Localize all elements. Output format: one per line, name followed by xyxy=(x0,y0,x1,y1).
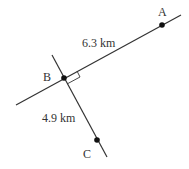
geometry-diagram: A B C 6.3 km 4.9 km xyxy=(0,0,189,169)
length-bc: 4.9 km xyxy=(42,111,76,125)
right-angle-marker xyxy=(67,71,80,84)
label-c: C xyxy=(83,147,91,161)
line-ab xyxy=(16,15,181,105)
point-a xyxy=(159,22,165,28)
label-b: B xyxy=(43,70,51,84)
label-a: A xyxy=(158,5,167,19)
point-b xyxy=(61,75,67,81)
point-c xyxy=(94,137,100,143)
length-ab: 6.3 km xyxy=(82,36,116,50)
